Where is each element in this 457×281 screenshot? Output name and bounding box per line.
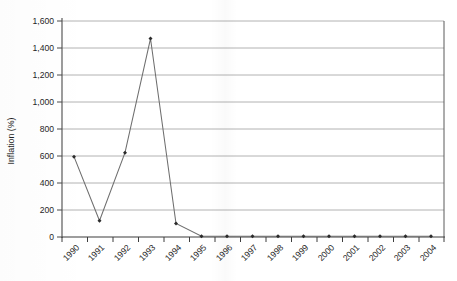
y-tick-label-800: 800: [40, 124, 55, 134]
y-tick-label-1600: 1,600: [32, 16, 54, 26]
inflation-line-chart: 1,600 1,400 1,200 1,000 800 600 400 200 …: [0, 0, 457, 281]
chart-canvas: 1,600 1,400 1,200 1,000 800 600 400 200 …: [0, 0, 457, 281]
y-tick-label-1200: 1,200: [32, 70, 54, 80]
y-tick-label-200: 200: [40, 205, 55, 215]
y-tick-label-600: 600: [40, 151, 55, 161]
y-tick-label-1400: 1,400: [32, 43, 54, 53]
y-tick-label-400: 400: [40, 178, 55, 188]
y-tick-label-1000: 1,000: [32, 97, 54, 107]
y-axis-title: Inflation (%): [6, 117, 16, 164]
chart-background: [0, 0, 457, 281]
y-tick-label-0: 0: [49, 232, 54, 242]
